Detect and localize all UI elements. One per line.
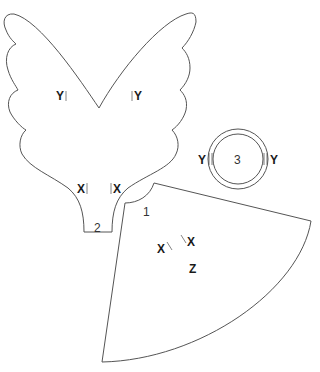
cone-left-x-tick [167,242,172,250]
template-diagram [0,0,320,372]
piece-2-number: 2 [94,222,101,234]
cone-piece-outline [102,183,311,362]
wings-piece-outline [4,13,196,232]
wing-right-y-label: Y [134,90,142,102]
wing-left-x-label: X [77,183,85,195]
cone-right-x-tick [181,235,186,243]
cone-z-label: Z [189,263,196,275]
piece-3-number: 3 [234,154,241,166]
cone-right-x-label: X [187,236,195,248]
wing-right-x-label: X [113,183,121,195]
wing-left-y-label: Y [56,90,64,102]
cone-left-x-label: X [157,243,165,255]
ring-right-y-label: Y [270,154,278,166]
ring-left-y-label: Y [198,154,206,166]
piece-1-number: 1 [143,206,150,218]
